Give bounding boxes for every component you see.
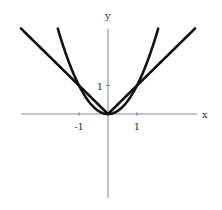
- y-tick-label: 1: [97, 81, 103, 92]
- x-axis-label: x: [202, 109, 208, 120]
- tick-marks: -111: [74, 81, 140, 133]
- plot-area: -111 x y: [0, 0, 222, 210]
- x-tick-label: -1: [74, 121, 84, 132]
- x-tick-label: 1: [134, 121, 140, 132]
- y-axis-label: y: [104, 10, 111, 21]
